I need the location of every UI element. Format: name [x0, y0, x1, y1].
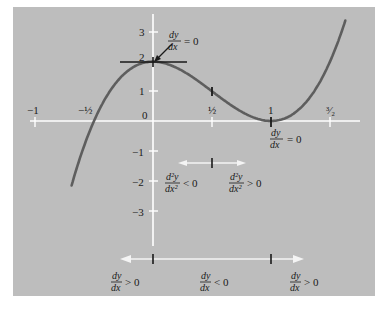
svg-text:> 0: > 0 — [304, 276, 319, 288]
svg-text:dx: dx — [168, 41, 178, 52]
svg-text:dy: dy — [291, 270, 301, 281]
increasing-right-label: dy dx > 0 — [290, 270, 319, 293]
x-tick-label: 1 — [268, 104, 274, 116]
svg-text:= 0: = 0 — [287, 133, 302, 145]
increasing-left-label: dy dx > 0 — [111, 270, 140, 293]
max-dy-dx-label: dy dx = 0 — [168, 29, 199, 52]
svg-text:> 0: > 0 — [125, 276, 140, 288]
y-tick-label: −2 — [132, 176, 144, 188]
svg-text:d²y: d²y — [230, 171, 243, 182]
calculus-diagram: −1 −½ ½ 1 ³⁄₂ 3 2 1 0 −1 −2 −3 dy dx = 0… — [0, 0, 385, 309]
x-tick-label: ³⁄₂ — [326, 104, 335, 116]
concave-down-label: d²y dx² < 0 — [165, 171, 198, 194]
svg-text:dx: dx — [200, 282, 210, 293]
y-tick-label: 1 — [139, 85, 145, 97]
svg-text:d²y: d²y — [166, 171, 179, 182]
svg-text:dy: dy — [271, 127, 281, 138]
svg-text:dy: dy — [169, 29, 179, 40]
concavity-arrow — [178, 158, 246, 168]
min-dy-dx-label: dy dx = 0 — [270, 127, 302, 150]
svg-text:dx²: dx² — [229, 183, 242, 194]
svg-text:= 0: = 0 — [184, 35, 199, 47]
y-tick-label: 0 — [142, 109, 148, 121]
svg-text:dx: dx — [290, 282, 300, 293]
svg-text:dx: dx — [111, 282, 121, 293]
svg-text:> 0: > 0 — [247, 177, 262, 189]
y-tick-label: 3 — [139, 26, 145, 38]
svg-text:dx: dx — [270, 139, 280, 150]
monotonicity-arrow — [120, 254, 304, 264]
concave-up-label: d²y dx² > 0 — [229, 171, 262, 194]
svg-text:< 0: < 0 — [183, 177, 198, 189]
y-tick-label: −3 — [132, 206, 144, 218]
x-tick-label: −1 — [27, 104, 39, 116]
x-tick-label: ½ — [208, 104, 216, 116]
svg-text:< 0: < 0 — [214, 276, 229, 288]
decreasing-label: dy dx < 0 — [200, 270, 229, 293]
svg-text:dy: dy — [201, 270, 211, 281]
y-tick-label: −1 — [132, 146, 144, 158]
x-tick-label: −½ — [78, 104, 92, 116]
svg-text:dy: dy — [112, 270, 122, 281]
svg-text:dx²: dx² — [165, 183, 178, 194]
